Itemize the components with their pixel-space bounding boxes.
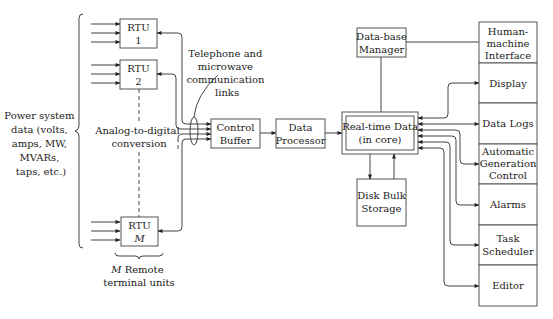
- power-system-brace: [75, 14, 83, 248]
- communication-label: Telephone and microwave communication li…: [186, 48, 267, 98]
- svg-text:Display: Display: [489, 78, 527, 89]
- control-buffer: ControlBuffer: [211, 119, 260, 148]
- disk-bulk-storage: Disk BulkStorage: [357, 179, 407, 226]
- rtu-m: RTUM: [121, 217, 158, 246]
- task-scheduler-box: [479, 225, 537, 265]
- database-manager: Data-baseManager: [356, 28, 407, 57]
- rtu-1: RTU1: [120, 19, 157, 48]
- realtime-data: Real-time Data(in core): [342, 112, 418, 154]
- rtu-2: RTU2: [120, 60, 157, 89]
- hmi-links: [418, 83, 479, 286]
- scada-diagram: Power system data (volts, amps, MW, MVAR…: [0, 0, 553, 319]
- rtu-caption-brace: [115, 253, 163, 259]
- data-processor: DataProcessor: [275, 119, 325, 148]
- power-system-data-label: Power system data (volts, amps, MW, MVAR…: [4, 110, 77, 177]
- svg-text:Data Logs: Data Logs: [482, 118, 533, 129]
- hmi-column: Human-machineInterface Display Data Logs…: [479, 22, 537, 306]
- rtu-caption: M Remote terminal units: [103, 264, 174, 288]
- svg-text:Alarms: Alarms: [489, 199, 526, 210]
- svg-text:Editor: Editor: [492, 280, 524, 291]
- svg-text:Human-machineInterface: Human-machineInterface: [485, 26, 531, 61]
